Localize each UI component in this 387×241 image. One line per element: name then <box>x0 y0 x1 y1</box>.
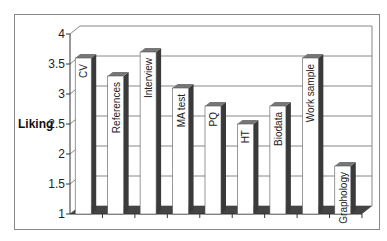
bar-chart: 11.522.533.54LikingCVReferencesInterview… <box>0 0 387 241</box>
y-tick-label: 3.5 <box>48 57 65 71</box>
bar-side <box>253 120 258 214</box>
bar-label: References <box>111 82 122 133</box>
gridline-side <box>70 26 80 34</box>
bar-label: Graphology <box>338 172 349 224</box>
y-tick-label: 2 <box>58 147 65 161</box>
bar-side <box>286 102 291 214</box>
bar-side <box>351 162 356 214</box>
bar-label: CV <box>78 64 89 78</box>
bar-label: HT <box>240 130 251 143</box>
bar-side <box>91 54 96 214</box>
y-tick-label: 4 <box>58 27 65 41</box>
y-tick-label: 3 <box>58 87 65 101</box>
bar-label: MA test <box>176 94 187 128</box>
bar-side <box>318 54 323 214</box>
bar-label: Biodata <box>273 112 284 146</box>
bar-label: PQ <box>208 112 219 127</box>
bar-label: Interview <box>143 57 154 98</box>
bar-side <box>221 102 226 214</box>
y-tick-label: 1 <box>58 207 65 221</box>
y-axis-label: Liking <box>18 117 53 131</box>
bar-side <box>189 84 194 214</box>
bar-side <box>124 72 129 214</box>
y-tick-label: 1.5 <box>48 177 65 191</box>
bar-side <box>156 48 161 214</box>
bar-label: Work sample <box>305 64 316 123</box>
bar-cv <box>75 58 91 214</box>
